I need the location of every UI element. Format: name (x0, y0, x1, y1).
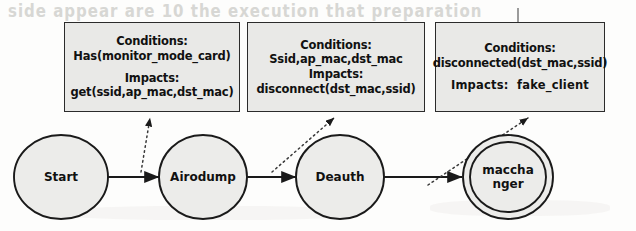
node-airodump[interactable] (159, 135, 247, 219)
node-deauth[interactable] (296, 135, 384, 219)
leader-airodump (141, 118, 150, 172)
diagram-vector-layer (0, 0, 636, 231)
diagram-canvas: side appear are 10 the execution that pr… (0, 0, 636, 231)
node-macchanger[interactable] (470, 142, 546, 212)
node-start[interactable] (14, 135, 108, 219)
